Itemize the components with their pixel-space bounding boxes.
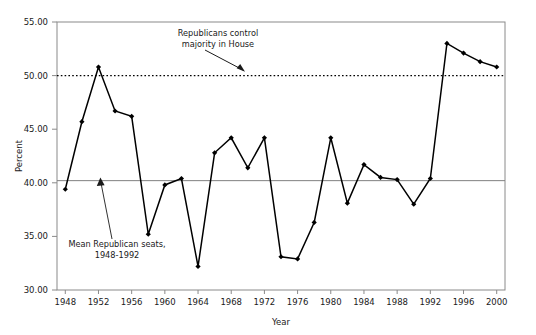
x-tick-label: 1996	[453, 297, 475, 307]
y-tick-group: 45.00	[24, 124, 57, 134]
y-axis-title: Percent	[14, 139, 24, 172]
x-tick-label: 1956	[121, 297, 143, 307]
y-tick-group: 55.00	[24, 17, 57, 27]
y-tick-label: 30.00	[24, 285, 48, 295]
y-tick-group: 40.00	[24, 178, 57, 188]
x-axis: 1948195219561960196419681972197619801984…	[54, 290, 507, 307]
x-tick-label: 1948	[54, 297, 76, 307]
x-tick-label: 1968	[220, 297, 242, 307]
y-axis: 30.00 35.00 40.00 45.00 50.00 55.00	[24, 17, 57, 295]
republican-seats-line-chart: 30.00 35.00 40.00 45.00 50.00 55.00	[0, 0, 536, 335]
majority-annotation-line2: majority in House	[182, 39, 254, 49]
mean-annotation-line2: 1948-1992	[95, 250, 140, 260]
x-tick-label: 1964	[187, 297, 209, 307]
y-tick-group: 50.00	[24, 71, 57, 81]
x-tick-label: 1976	[287, 297, 309, 307]
y-tick-label: 45.00	[24, 124, 48, 134]
mean-annotation-line1: Mean Republican seats,	[68, 239, 165, 249]
y-tick-group: 30.00	[24, 285, 57, 295]
y-tick-label: 55.00	[24, 17, 48, 27]
majority-annotation-line1: Republicans control	[178, 28, 258, 38]
x-tick-label: 1960	[154, 297, 176, 307]
y-tick-label: 40.00	[24, 178, 48, 188]
x-tick-label: 2000	[486, 297, 508, 307]
x-tick-label: 1992	[420, 297, 442, 307]
y-tick-label: 50.00	[24, 71, 48, 81]
x-axis-title: Year	[271, 317, 291, 327]
x-tick-label: 1972	[254, 297, 276, 307]
x-tick-label: 1952	[88, 297, 110, 307]
x-tick-label: 1984	[353, 297, 375, 307]
x-tick-label: 1988	[386, 297, 408, 307]
y-tick-label: 35.00	[24, 231, 48, 241]
chart-figure: 30.00 35.00 40.00 45.00 50.00 55.00	[0, 0, 536, 335]
x-tick-label: 1980	[320, 297, 342, 307]
y-tick-group: 35.00	[24, 231, 57, 241]
